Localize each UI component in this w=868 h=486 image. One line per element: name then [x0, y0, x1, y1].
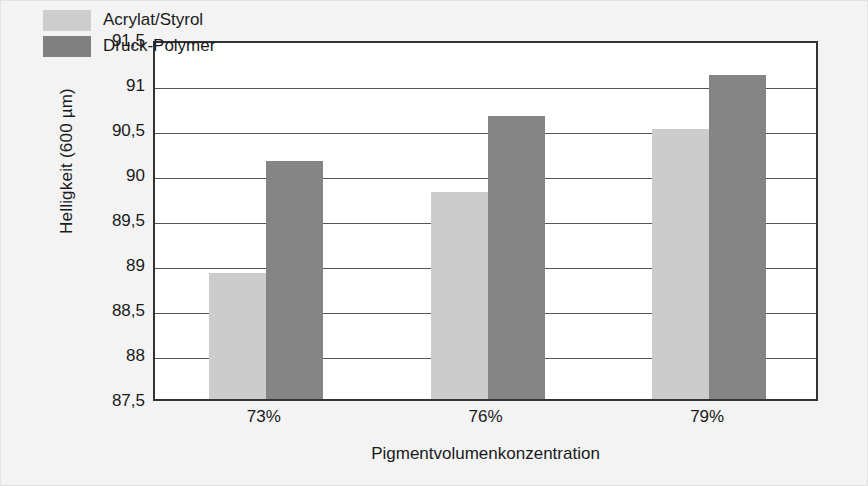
legend-item: Druck-Polymer [43, 33, 215, 59]
y-tick-label: 87,5 [57, 391, 145, 411]
bar [431, 192, 488, 399]
legend-item: Acrylat/Styrol [43, 7, 215, 33]
bar [709, 75, 766, 399]
x-tick-label: 73% [247, 407, 281, 427]
legend-swatch [43, 36, 91, 57]
y-tick-label: 89 [57, 256, 145, 276]
bar-chart-figure: Helligkeit (600 µm) 91,59190,59089,58988… [0, 0, 868, 486]
x-axis-tick-labels: 73%76%79% [153, 407, 818, 433]
y-tick-label: 89,5 [57, 211, 145, 231]
y-tick-label: 91 [57, 76, 145, 96]
bar [488, 116, 545, 400]
x-axis-title: Pigmentvolumenkonzentration [153, 444, 818, 464]
legend: Acrylat/StyrolDruck-Polymer [43, 7, 215, 59]
bar [652, 129, 709, 399]
y-tick-label: 90 [57, 166, 145, 186]
legend-swatch [43, 10, 91, 31]
y-axis-tick-labels: 91,59190,59089,58988,58887,5 [57, 41, 145, 401]
y-tick-label: 88 [57, 346, 145, 366]
y-tick-label: 90,5 [57, 121, 145, 141]
plot-area [153, 41, 818, 401]
bar [209, 273, 266, 399]
x-tick-label: 76% [468, 407, 502, 427]
legend-label: Druck-Polymer [103, 36, 215, 56]
y-tick-label: 88,5 [57, 301, 145, 321]
legend-label: Acrylat/Styrol [103, 10, 203, 30]
bars-layer [155, 43, 816, 399]
bar [266, 161, 323, 400]
x-tick-label: 79% [690, 407, 724, 427]
